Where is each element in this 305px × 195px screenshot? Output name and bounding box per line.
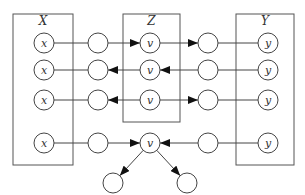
box-label-x: X — [38, 14, 48, 28]
node-left-fork — [88, 90, 108, 110]
node-v-chain-backward: v — [140, 60, 160, 80]
node-right-collider — [198, 133, 218, 153]
node-x-chain-forward-label: x — [41, 37, 48, 50]
node-x-collider-label: x — [41, 137, 48, 150]
node-y-fork-label: y — [264, 94, 272, 107]
node-y-collider: y — [258, 133, 278, 153]
d-separation-diagram: XZY xvyxvyxvyxvy — [0, 0, 305, 195]
node-x-fork-label: x — [41, 94, 48, 107]
node-v-chain-forward-label: v — [147, 37, 154, 50]
node-descendant-1 — [177, 173, 197, 193]
edge-v-descendant-1 — [157, 150, 180, 175]
node-x-fork: x — [34, 90, 54, 110]
node-right-chain-forward — [198, 33, 218, 53]
node-left-collider — [88, 133, 108, 153]
node-v-chain-backward-label: v — [147, 64, 154, 77]
node-y-fork: y — [258, 90, 278, 110]
node-v-collider: v — [140, 133, 160, 153]
node-x-chain-backward: x — [34, 60, 54, 80]
node-y-collider-label: y — [264, 137, 272, 150]
node-x-collider: x — [34, 133, 54, 153]
node-y-chain-forward-label: y — [264, 37, 272, 50]
node-y-chain-backward: y — [258, 60, 278, 80]
node-descendant-0 — [103, 173, 123, 193]
node-right-chain-backward — [198, 60, 218, 80]
node-y-chain-forward: y — [258, 33, 278, 53]
node-v-fork-label: v — [147, 94, 154, 107]
node-v-collider-label: v — [147, 137, 154, 150]
box-label-z: Z — [146, 14, 156, 28]
node-left-chain-forward — [88, 33, 108, 53]
node-x-chain-backward-label: x — [41, 64, 48, 77]
node-left-chain-backward — [88, 60, 108, 80]
node-x-chain-forward: x — [34, 33, 54, 53]
edge-v-descendant-0 — [120, 150, 143, 175]
node-y-chain-backward-label: y — [264, 64, 272, 77]
node-v-chain-forward: v — [140, 33, 160, 53]
node-v-fork: v — [140, 90, 160, 110]
box-label-y: Y — [261, 14, 270, 28]
node-right-fork — [198, 90, 218, 110]
